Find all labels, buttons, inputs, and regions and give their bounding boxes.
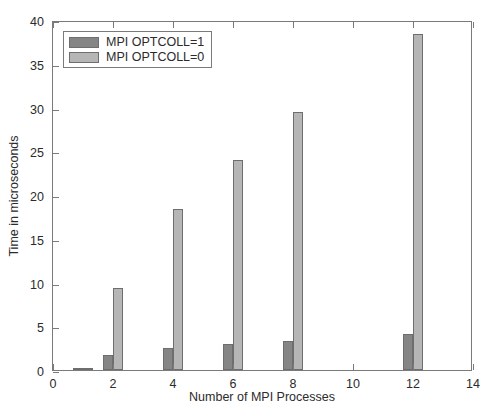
x-tick-mark bbox=[53, 364, 54, 370]
legend-label-series-1: MPI OPTCOLL=0 bbox=[106, 51, 204, 63]
x-tick-mark-top bbox=[233, 22, 234, 28]
x-tick-label: 6 bbox=[230, 377, 237, 391]
x-tick-mark bbox=[413, 364, 414, 370]
y-tick-label: 20 bbox=[30, 190, 44, 204]
y-tick-label: 15 bbox=[30, 234, 44, 248]
x-tick-mark-top bbox=[293, 22, 294, 28]
y-tick-label: 5 bbox=[37, 321, 44, 335]
bar bbox=[293, 112, 303, 370]
bar-chart-figure: 0510152025303540 02468101214 MPI OPTCOLL… bbox=[0, 0, 500, 410]
x-tick-label: 2 bbox=[110, 377, 117, 391]
y-tick-mark bbox=[53, 372, 59, 373]
legend-swatch-series-1 bbox=[69, 52, 99, 63]
y-tick-label: 25 bbox=[30, 146, 44, 160]
x-tick-mark-top bbox=[353, 22, 354, 28]
bar bbox=[403, 334, 413, 370]
bar bbox=[83, 368, 93, 370]
bar bbox=[283, 341, 293, 370]
x-tick-label: 12 bbox=[406, 377, 420, 391]
x-tick-label: 4 bbox=[170, 377, 177, 391]
x-tick-mark-top bbox=[473, 22, 474, 28]
y-tick-label: 10 bbox=[30, 278, 44, 292]
x-tick-mark bbox=[233, 364, 234, 370]
y-axis-title: Time in microseconds bbox=[7, 96, 21, 296]
y-tick-label: 40 bbox=[30, 15, 44, 29]
x-tick-mark-top bbox=[53, 22, 54, 28]
x-tick-mark-top bbox=[113, 22, 114, 28]
bar bbox=[73, 368, 83, 370]
bar bbox=[233, 160, 243, 370]
plot-area: 0510152025303540 02468101214 MPI OPTCOLL… bbox=[52, 21, 472, 371]
bars-layer bbox=[53, 22, 471, 370]
x-tick-mark bbox=[353, 364, 354, 370]
chart-legend: MPI OPTCOLL=1 MPI OPTCOLL=0 bbox=[63, 31, 212, 68]
x-tick-label: 10 bbox=[346, 377, 360, 391]
x-tick-label: 14 bbox=[466, 377, 480, 391]
bar bbox=[103, 355, 113, 370]
y-tick-mark bbox=[53, 110, 59, 111]
legend-swatch-series-0 bbox=[69, 37, 99, 48]
bar bbox=[223, 344, 233, 370]
y-tick-label: 0 bbox=[37, 365, 44, 379]
y-tick-mark bbox=[53, 328, 59, 329]
x-tick-mark-top bbox=[413, 22, 414, 28]
y-tick-mark bbox=[53, 241, 59, 242]
y-tick-label: 30 bbox=[30, 103, 44, 117]
x-tick-mark bbox=[473, 364, 474, 370]
bar bbox=[173, 209, 183, 370]
x-axis-title: Number of MPI Processes bbox=[52, 390, 472, 404]
x-tick-mark bbox=[293, 364, 294, 370]
legend-item-optcoll-1: MPI OPTCOLL=1 bbox=[69, 36, 204, 48]
bar bbox=[163, 348, 173, 370]
bar bbox=[413, 34, 423, 370]
x-tick-mark-top bbox=[173, 22, 174, 28]
bar bbox=[113, 288, 123, 370]
legend-label-series-0: MPI OPTCOLL=1 bbox=[106, 36, 204, 48]
x-tick-label: 8 bbox=[290, 377, 297, 391]
x-tick-label: 0 bbox=[50, 377, 57, 391]
x-tick-mark bbox=[113, 364, 114, 370]
y-tick-mark bbox=[53, 285, 59, 286]
y-tick-label: 35 bbox=[30, 59, 44, 73]
y-tick-mark bbox=[53, 197, 59, 198]
y-tick-mark bbox=[53, 66, 59, 67]
legend-item-optcoll-0: MPI OPTCOLL=0 bbox=[69, 51, 204, 63]
y-tick-mark bbox=[53, 153, 59, 154]
x-tick-mark bbox=[173, 364, 174, 370]
